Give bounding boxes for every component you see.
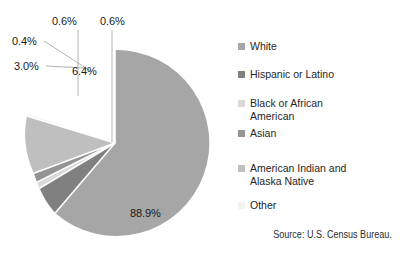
legend-swatch-other-icon [238, 202, 245, 209]
legend-item-hispanic-or-latino[interactable]: Hispanic or Latino [238, 68, 334, 81]
legend-label-asian: Asian [250, 127, 276, 140]
legend-item-other[interactable]: Other [238, 199, 276, 212]
legend-swatch-white-icon [238, 43, 245, 50]
source-attribution: Source: U.S. Census Bureau. [274, 228, 392, 240]
callout-label-black: 0.4% [12, 35, 37, 47]
legend-label-white: White [250, 40, 277, 53]
legend-item-white[interactable]: White [238, 40, 277, 53]
pie-chart-figure: 0.6% 0.6% 0.4% 3.0% 6.4% 88.9% White His… [0, 0, 400, 262]
pie-slices [25, 50, 209, 236]
legend-item-american-indian-alaska-native[interactable]: American Indian and Alaska Native [238, 162, 346, 187]
callout-label-hispanic: 3.0% [14, 60, 39, 72]
slice-label-american-indian: 6.4% [72, 65, 97, 77]
callout-label-asian: 0.6% [52, 15, 77, 27]
legend-label-other: Other [250, 199, 276, 212]
callout-label-other: 0.6% [100, 15, 125, 27]
legend-label-black-or-african-american: Black or African American [250, 97, 323, 122]
legend-item-black-or-african-american[interactable]: Black or African American [238, 97, 323, 122]
legend-item-asian[interactable]: Asian [238, 127, 276, 140]
legend-label-hispanic-or-latino: Hispanic or Latino [250, 68, 334, 81]
legend-swatch-hispanic-or-latino-icon [238, 71, 245, 78]
legend-swatch-asian-icon [238, 130, 245, 137]
legend-label-american-indian-alaska-native: American Indian and Alaska Native [250, 162, 346, 187]
legend-swatch-american-indian-alaska-native-icon [238, 165, 245, 172]
slice-label-white: 88.9% [130, 207, 161, 219]
legend-swatch-black-or-african-american-icon [238, 100, 245, 107]
pie-chart-graphic [0, 0, 400, 262]
